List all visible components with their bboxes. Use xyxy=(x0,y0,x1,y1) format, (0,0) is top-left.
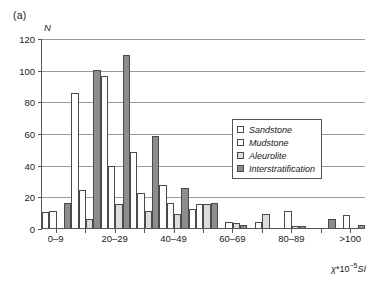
bar xyxy=(123,55,130,228)
bar xyxy=(328,219,335,229)
legend-item-label: Aleurolite xyxy=(249,151,287,161)
bar-group xyxy=(189,39,218,228)
x-axis-title-unit: SI xyxy=(357,264,366,274)
bar xyxy=(93,70,100,228)
bar xyxy=(299,226,306,228)
legend-swatch-icon xyxy=(237,126,244,133)
legend-item-label: Interstratification xyxy=(249,164,315,174)
bar xyxy=(240,225,247,228)
x-axis-tick xyxy=(262,229,263,233)
legend-item: Aleurolite xyxy=(237,149,315,162)
legend-item-label: Mudstone xyxy=(249,138,289,148)
x-axis-tick-label xyxy=(306,233,335,249)
bar xyxy=(225,222,232,228)
bar xyxy=(211,203,218,228)
x-axis-tick-label: >100 xyxy=(336,233,365,249)
x-axis-tick-label: 20–29 xyxy=(100,233,129,249)
bar xyxy=(79,190,86,228)
x-axis-tick xyxy=(85,229,86,233)
bar xyxy=(292,226,299,228)
legend-item-label: Sandstone xyxy=(249,125,292,135)
bar xyxy=(42,212,49,228)
y-axis-tick-label: 60 xyxy=(24,129,35,140)
x-axis-tick-label xyxy=(70,233,99,249)
legend-item: Interstratification xyxy=(237,162,315,175)
bar-group xyxy=(130,39,159,228)
legend-item: Mudstone xyxy=(237,136,315,149)
bar-group xyxy=(42,39,71,228)
legend-item: Sandstone xyxy=(237,123,315,136)
x-axis-tick xyxy=(56,229,57,233)
bar xyxy=(262,214,269,228)
x-axis-tick xyxy=(350,229,351,233)
x-axis-tick xyxy=(291,229,292,233)
y-axis-tick-label: 0 xyxy=(30,224,35,235)
bar xyxy=(159,185,166,228)
x-axis-tick xyxy=(232,229,233,233)
y-axis-tick xyxy=(38,229,42,230)
bar xyxy=(115,204,122,228)
y-axis-tick-label: 80 xyxy=(24,97,35,108)
bar xyxy=(130,152,137,228)
bar-group xyxy=(159,39,188,228)
bar xyxy=(49,211,56,228)
x-axis-title: χ*10−5SI xyxy=(331,262,366,274)
legend-swatch-icon xyxy=(237,152,244,159)
bar-group xyxy=(71,39,100,228)
y-axis-title: N xyxy=(44,22,51,33)
bar xyxy=(284,211,291,228)
bar xyxy=(196,204,203,228)
bar-group xyxy=(336,39,365,228)
panel-label: (a) xyxy=(13,9,26,21)
x-axis-tick-label xyxy=(188,233,217,249)
x-axis-tick xyxy=(144,229,145,233)
bar xyxy=(343,215,350,228)
x-axis-tick-label: 60–69 xyxy=(218,233,247,249)
x-axis-title-mid: *10 xyxy=(336,264,350,274)
y-axis-tick-label: 20 xyxy=(24,192,35,203)
bar-group xyxy=(101,39,130,228)
bar xyxy=(137,193,144,228)
bar xyxy=(181,188,188,228)
bar xyxy=(71,93,78,228)
x-axis-tick xyxy=(321,229,322,233)
bar xyxy=(358,225,365,228)
x-axis-tick xyxy=(115,229,116,233)
legend: SandstoneMudstoneAleuroliteInterstratifi… xyxy=(232,119,322,179)
y-axis-tick-label: 100 xyxy=(19,65,35,76)
bar xyxy=(203,204,210,228)
figure-panel: (a) N 020406080100120 0–920–2940–4960–69… xyxy=(0,0,382,286)
x-axis-tick-label xyxy=(247,233,276,249)
bar xyxy=(101,76,108,228)
x-axis-tick-label xyxy=(129,233,158,249)
y-axis-tick-label: 40 xyxy=(24,160,35,171)
bar xyxy=(64,203,71,228)
x-axis-tick-label: 0–9 xyxy=(41,233,70,249)
bar xyxy=(167,203,174,228)
bar xyxy=(86,219,93,229)
x-axis-tick-labels: 0–920–2940–4960–6980–89>100 xyxy=(41,233,365,249)
legend-swatch-icon xyxy=(237,139,244,146)
bar xyxy=(174,214,181,228)
bar xyxy=(108,166,115,228)
y-axis-tick-label: 120 xyxy=(19,34,35,45)
legend-swatch-icon xyxy=(237,165,244,172)
x-axis-tick xyxy=(203,229,204,233)
x-axis-tick-label: 80–89 xyxy=(277,233,306,249)
bar xyxy=(152,136,159,228)
x-axis-tick xyxy=(174,229,175,233)
bar xyxy=(145,211,152,228)
x-axis-tick-label: 40–49 xyxy=(159,233,188,249)
bar xyxy=(189,209,196,228)
bar xyxy=(233,223,240,228)
bar xyxy=(255,222,262,228)
